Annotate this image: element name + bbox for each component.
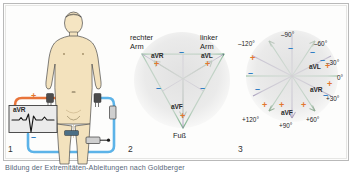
panel2-left-minus: –: [156, 84, 161, 93]
panel-2-einthoven-triangle: rechter Arm linker Arm Fuß aVR aVL aVF +…: [128, 6, 238, 158]
panel2-avr-label: aVR: [151, 52, 163, 59]
panel3-minus-left: –: [248, 69, 253, 78]
panel2-left-arm-label: linker Arm: [200, 34, 218, 51]
panel3-plus-60: +: [301, 101, 306, 110]
panel3-deg-minus-120: –120°: [238, 40, 255, 47]
panel3-minus-minus90: –: [288, 44, 293, 53]
panel2-right-minus: –: [200, 84, 205, 93]
panel2-avl-plus: +: [205, 60, 210, 69]
electrode-ankle: [65, 131, 79, 136]
panel-1-number: 1: [8, 144, 13, 154]
panel3-minus-plus30: –: [255, 85, 260, 94]
panel1-minus-sign: –: [31, 133, 36, 142]
panel2-avf-plus: +: [180, 112, 185, 121]
panel3-deg-minus-90: –90°: [281, 31, 294, 38]
panel-1-graphic: [4, 6, 144, 158]
panel-3-cabrera-circle: –120° –90° –60° –30° 0° +30° +60° +90° +…: [238, 6, 348, 158]
panel1-plus-sign: +: [31, 92, 36, 101]
panel3-plus-90: +: [279, 101, 284, 110]
panel3-plus-120: +: [262, 101, 267, 110]
panel3-avr-label: aVR: [310, 86, 322, 93]
resistor-horizontal: [86, 137, 110, 144]
panel3-minus-minus30: –: [320, 56, 325, 65]
panel-2-number: 2: [128, 144, 133, 154]
left-arm-line2: Arm: [200, 42, 214, 51]
panel2-avl-label: aVL: [201, 52, 213, 59]
panel3-minus-minus60: –: [310, 48, 315, 57]
ecg-box-lead-label: aVR: [12, 106, 26, 113]
figure-caption: Bildung der Extremitäten-Ableitungen nac…: [5, 163, 185, 172]
panel2-right-arm-label: rechter Arm: [130, 34, 153, 51]
electrode-left-wrist: [94, 94, 101, 108]
caption-band: Bildung der Extremitäten-Ableitungen nac…: [3, 163, 349, 175]
panel3-deg-plus-60: +60°: [306, 116, 319, 123]
panel3-minus-upper-right: –: [323, 91, 328, 100]
panel3-plus-zero: +: [327, 80, 332, 89]
panel3-avf-label: aVF: [281, 109, 293, 116]
panel3-plus-minus120: +: [250, 54, 255, 63]
panel3-deg-plus-120: +120°: [242, 116, 259, 123]
ecg-goldberger-figure: aVR + – 1: [0, 0, 352, 176]
electrode-right-wrist: [47, 94, 54, 108]
panel2-top-minus: –: [179, 48, 184, 57]
panel2-avr-plus: +: [154, 60, 159, 69]
panel3-deg-zero: 0°: [337, 74, 343, 81]
right-arm-line2: Arm: [130, 42, 144, 51]
panel3-plus-avl: +: [325, 62, 330, 71]
panel3-avl-label: aVL: [309, 63, 321, 70]
resistor-vertical: [110, 106, 117, 119]
panel3-deg-plus-90: +90°: [279, 122, 292, 129]
panel-3-number: 3: [238, 144, 243, 154]
panel2-avf-label: aVF: [171, 103, 183, 110]
panel2-foot-label: Fuß: [173, 132, 186, 141]
panel3-deg-minus-60: –60°: [314, 40, 327, 47]
panel-1-body-electrodes: aVR + – 1: [4, 6, 144, 158]
